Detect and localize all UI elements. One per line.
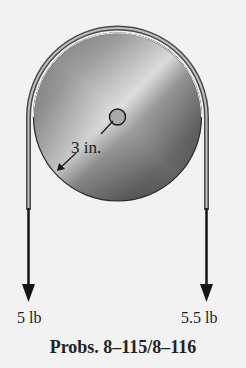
figure-caption: Probs. 8–115/8–116: [0, 338, 246, 356]
force-arrow-left: [22, 208, 35, 302]
figure-canvas: 3 in. 5 lb 5.5 lb Probs. 8–115/8–116: [0, 0, 246, 368]
force-label-left: 5 lb: [17, 310, 41, 326]
force-label-right: 5.5 lb: [181, 310, 217, 326]
radius-label: 3 in.: [71, 139, 101, 156]
force-arrow-right: [200, 208, 213, 302]
